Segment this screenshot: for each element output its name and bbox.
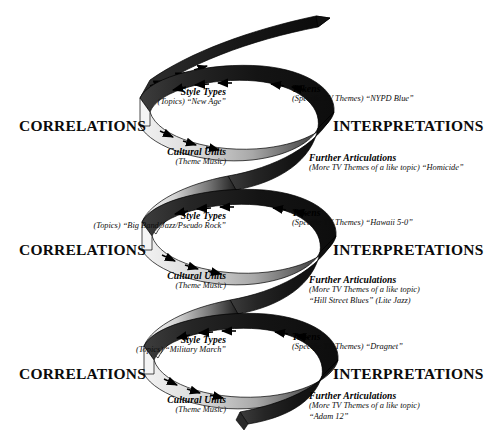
further-articulations-group-3: Further Articulations (More TV Themes of… bbox=[309, 390, 476, 422]
interpretations-heading-2: INTERPRETATIONS bbox=[333, 241, 484, 259]
correlations-heading-2: CORRELATIONS bbox=[19, 241, 146, 259]
style-types-title-2: Style Types bbox=[10, 210, 226, 221]
cultural-units-group-1: Cultural Units (Theme Music) bbox=[40, 146, 226, 168]
tokens-title-3: Tokens bbox=[292, 331, 476, 342]
cultural-units-title-1: Cultural Units bbox=[40, 146, 226, 157]
style-types-subtitle-3: (Topics) “Military March” bbox=[40, 345, 226, 356]
cultural-units-group-2: Cultural Units (Theme Music) bbox=[40, 270, 226, 292]
style-types-title-3: Style Types bbox=[40, 334, 226, 345]
further-articulations-subtitle-2: (More TV Themes of a like topic) bbox=[309, 285, 476, 296]
style-types-title-1: Style Types bbox=[40, 86, 226, 97]
tokens-group-1: Tokens (Specific TV Themes) “NYPD Blue” bbox=[292, 83, 476, 105]
further-articulations-group-1: Further Articulations (More TV Themes of… bbox=[309, 152, 476, 174]
cultural-units-title-2: Cultural Units bbox=[40, 270, 226, 281]
tokens-subtitle-2: (Specific TV Themes) “Hawaii 5-0” bbox=[292, 218, 476, 229]
style-types-group-1: Style Types (Topics) “New Age” bbox=[40, 86, 226, 108]
further-articulations-subtitle2-3: “Adam 12” bbox=[309, 412, 476, 423]
further-articulations-subtitle-3: (More TV Themes of a like topic) bbox=[309, 401, 476, 412]
cultural-units-subtitle-2: (Theme Music) bbox=[40, 281, 226, 292]
further-articulations-title-3: Further Articulations bbox=[309, 390, 476, 401]
interpretations-heading-1: INTERPRETATIONS bbox=[333, 117, 484, 135]
style-types-group-2: Style Types (Topics) “Big Band/Jazz/Pseu… bbox=[10, 210, 226, 232]
correlations-heading-1: CORRELATIONS bbox=[19, 117, 146, 135]
tokens-title-2: Tokens bbox=[292, 207, 476, 218]
correlations-heading-3: CORRELATIONS bbox=[19, 365, 146, 383]
cultural-units-subtitle-1: (Theme Music) bbox=[40, 157, 226, 168]
style-types-subtitle-1: (Topics) “New Age” bbox=[40, 97, 226, 108]
tokens-group-3: Tokens (Specific TV Themes) “Dragnet” bbox=[292, 331, 476, 353]
style-types-group-3: Style Types (Topics) “Military March” bbox=[40, 334, 226, 356]
interpretations-heading-3: INTERPRETATIONS bbox=[333, 365, 484, 383]
tokens-subtitle-3: (Specific TV Themes) “Dragnet” bbox=[292, 342, 476, 353]
tokens-title-1: Tokens bbox=[292, 83, 476, 94]
cultural-units-title-3: Cultural Units bbox=[40, 394, 226, 405]
further-articulations-subtitle2-2: “Hill Street Blues” (Lite Jazz) bbox=[309, 296, 476, 307]
cultural-units-group-3: Cultural Units (Theme Music) bbox=[40, 394, 226, 416]
style-types-subtitle-2: (Topics) “Big Band/Jazz/Pseudo Rock” bbox=[10, 221, 226, 232]
further-articulations-title-1: Further Articulations bbox=[309, 152, 476, 163]
further-articulations-group-2: Further Articulations (More TV Themes of… bbox=[309, 274, 476, 306]
cultural-units-subtitle-3: (Theme Music) bbox=[40, 405, 226, 416]
further-articulations-subtitle-1: (More TV Themes of a like topic) “Homici… bbox=[309, 163, 476, 174]
tokens-subtitle-1: (Specific TV Themes) “NYPD Blue” bbox=[292, 94, 476, 105]
further-articulations-title-2: Further Articulations bbox=[309, 274, 476, 285]
tokens-group-2: Tokens (Specific TV Themes) “Hawaii 5-0” bbox=[292, 207, 476, 229]
